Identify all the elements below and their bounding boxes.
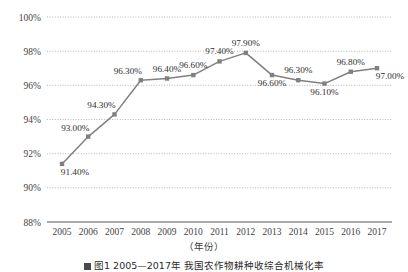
ytick-label: 100% <box>19 13 41 23</box>
figure-caption: 图1 2005—2017年 我国农作物耕种收综合机械化率 <box>0 258 408 272</box>
data-point-marker <box>244 51 248 55</box>
xtick-label: 2016 <box>341 227 360 237</box>
data-point-marker <box>375 66 379 70</box>
ytick-label: 88% <box>24 218 42 228</box>
data-point-marker <box>139 78 143 82</box>
y-axis-tick-labels: 100% 98% 96% 94% 92% 90% 88% <box>19 13 41 228</box>
xtick-label: 2012 <box>236 227 255 237</box>
data-point-label: 96.40% <box>153 64 182 74</box>
data-point-label: 91.40% <box>61 167 90 177</box>
xtick-label: 2013 <box>263 227 282 237</box>
data-point-label: 96.30% <box>284 65 313 75</box>
data-point-marker <box>217 59 221 63</box>
data-point-label: 96.30% <box>114 66 143 76</box>
data-point-label: 94.30% <box>87 100 116 110</box>
data-point-label: 96.60% <box>179 60 208 70</box>
x-axis-title: （年份） <box>0 239 408 253</box>
data-point-marker <box>60 162 64 166</box>
data-point-marker <box>270 73 274 77</box>
xtick-label: 2017 <box>368 227 387 237</box>
ytick-label: 92% <box>24 149 42 159</box>
data-point-marker <box>296 78 300 82</box>
xtick-label: 2005 <box>53 227 72 237</box>
series-data-labels: 91.40%93.00%94.30%96.30%96.40%96.60%97.4… <box>61 38 405 177</box>
line-chart: 100% 98% 96% 94% 92% 90% 88% 91.40%93.00… <box>0 0 408 240</box>
ytick-label: 98% <box>24 47 42 57</box>
xtick-label: 2015 <box>315 227 334 237</box>
xtick-label: 2011 <box>210 227 229 237</box>
data-point-label: 96.60% <box>258 78 287 88</box>
data-point-marker <box>322 81 326 85</box>
data-point-marker <box>112 112 116 116</box>
ytick-label: 90% <box>24 183 42 193</box>
xtick-label: 2008 <box>131 227 150 237</box>
data-point-marker <box>349 70 353 74</box>
caption-marker-icon <box>84 263 91 270</box>
data-point-label: 97.40% <box>205 46 234 56</box>
chart-svg: 100% 98% 96% 94% 92% 90% 88% 91.40%93.00… <box>0 0 408 240</box>
xtick-label: 2007 <box>105 227 124 237</box>
ytick-label: 96% <box>24 81 42 91</box>
data-point-label: 97.90% <box>232 38 261 48</box>
data-point-label: 96.10% <box>310 87 339 97</box>
caption-text: 图1 2005—2017年 我国农作物耕种收综合机械化率 <box>94 260 324 271</box>
xtick-label: 2006 <box>79 227 98 237</box>
data-point-label: 96.80% <box>337 57 366 67</box>
data-point-marker <box>165 76 169 80</box>
xtick-label: 2009 <box>158 227 177 237</box>
data-point-marker <box>86 134 90 138</box>
data-point-label: 93.00% <box>61 123 90 133</box>
xtick-label: 2010 <box>184 227 203 237</box>
xtick-label: 2014 <box>289 227 308 237</box>
data-point-label: 97.00% <box>376 71 405 81</box>
data-point-marker <box>191 73 195 77</box>
x-axis-tick-labels: 2005200620072008200920102011201220132014… <box>53 227 387 237</box>
ytick-label: 94% <box>24 115 42 125</box>
